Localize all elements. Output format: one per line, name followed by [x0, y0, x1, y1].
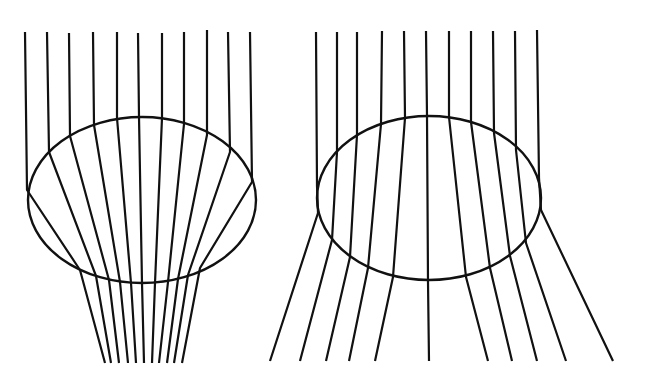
background: [0, 0, 651, 376]
refraction-diagram: [0, 0, 651, 376]
